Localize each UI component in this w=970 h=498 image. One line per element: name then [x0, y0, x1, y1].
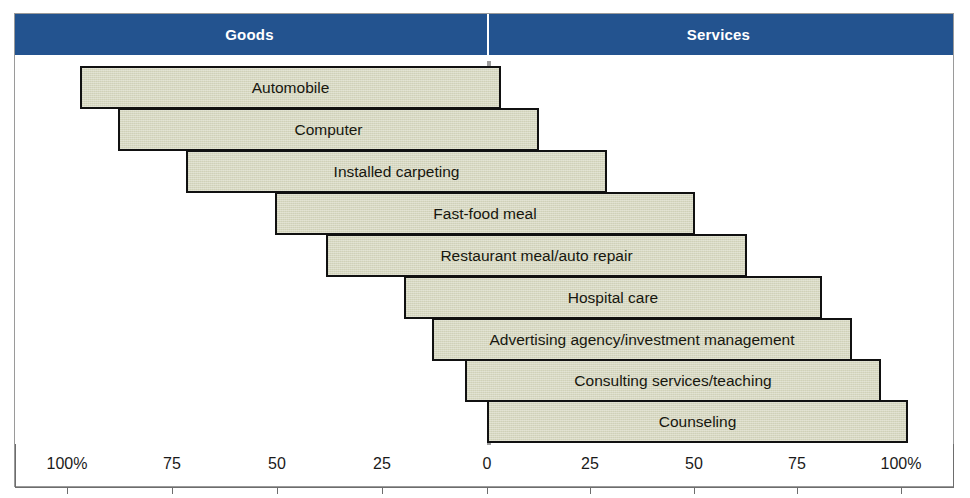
bar-label: Advertising agency/investment management	[490, 332, 795, 348]
axis-tick-label: 75	[788, 455, 806, 473]
bar-row: Counseling	[487, 400, 908, 443]
axis-tick-label: 25	[581, 455, 599, 473]
bar-label: Fast-food meal	[433, 206, 536, 222]
axis-tick	[487, 487, 488, 494]
axis-tick	[901, 487, 902, 494]
plot-area: AutomobileComputerInstalled carpetingFas…	[15, 56, 953, 487]
axis-tick-label: 50	[685, 455, 703, 473]
axis-tick	[172, 487, 173, 494]
axis-tick-label: 25	[373, 455, 391, 473]
bar-row: Fast-food meal	[275, 192, 695, 235]
header-goods-label: Goods	[15, 14, 484, 55]
bar-label: Consulting services/teaching	[574, 373, 771, 389]
bar-label: Hospital care	[568, 290, 658, 306]
bar-row: Consulting services/teaching	[465, 359, 881, 402]
axis-tick	[797, 487, 798, 494]
goods-services-continuum-chart: Goods Services AutomobileComputerInstall…	[0, 0, 970, 498]
chart-header-band: Goods Services	[15, 14, 953, 55]
bar-label: Automobile	[252, 80, 330, 96]
axis-tick	[277, 487, 278, 494]
axis-tick-label: 50	[268, 455, 286, 473]
bar-label: Counseling	[659, 414, 737, 430]
header-divider	[487, 14, 489, 55]
axis-tick	[67, 487, 68, 494]
bar-label: Installed carpeting	[334, 164, 460, 180]
bar-row: Computer	[118, 108, 539, 151]
axis-left-stub	[15, 444, 16, 488]
bar-row: Restaurant meal/auto repair	[326, 234, 747, 277]
axis-tick-label: 75	[163, 455, 181, 473]
axis-tick	[694, 487, 695, 494]
bar-label: Computer	[294, 122, 362, 138]
axis-tick	[590, 487, 591, 494]
axis-tick	[382, 487, 383, 494]
axis-tick-label: 100%	[881, 455, 922, 473]
axis-right-stub	[953, 444, 954, 488]
axis-tick-label: 0	[483, 455, 492, 473]
bar-label: Restaurant meal/auto repair	[440, 248, 632, 264]
bar-row: Hospital care	[404, 276, 822, 319]
axis-tick-label: 100%	[47, 455, 88, 473]
bar-row: Automobile	[80, 66, 501, 109]
bar-row: Installed carpeting	[186, 150, 607, 193]
header-services-label: Services	[484, 14, 953, 55]
axis-line	[15, 487, 954, 488]
bar-row: Advertising agency/investment management	[432, 318, 852, 361]
